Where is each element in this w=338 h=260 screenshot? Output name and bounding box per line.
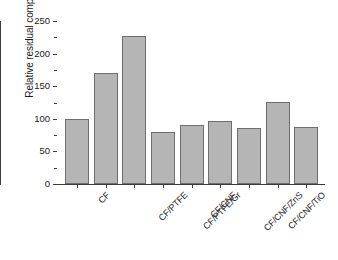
bar [65, 119, 89, 184]
x-tick [306, 184, 307, 188]
x-tick-label: CF [96, 190, 111, 205]
y-tick-major [53, 184, 57, 185]
y-tick-label: 200 [8, 49, 50, 58]
y-tick-label: 250 [8, 16, 50, 25]
x-tick [220, 184, 221, 188]
x-tick [249, 184, 250, 188]
bar [237, 128, 261, 184]
y-tick-label: 100 [8, 114, 50, 123]
y-tick-label-text: 250 [10, 16, 50, 25]
plot-area [57, 21, 325, 184]
x-tick [77, 184, 78, 188]
bar [180, 125, 204, 184]
bar [122, 36, 146, 184]
y-tick-label-text: 200 [10, 49, 50, 58]
x-tick [106, 184, 107, 188]
x-tick [278, 184, 279, 188]
x-tick [134, 184, 135, 188]
y-tick-label-text: 50 [10, 146, 50, 155]
x-tick [192, 184, 193, 188]
y-tick-label-text: 150 [10, 81, 50, 90]
y-axis-line [0, 21, 1, 185]
y-tick-label-text: 0 [10, 179, 50, 188]
bar [208, 121, 232, 184]
bar [94, 73, 118, 184]
bar [151, 132, 175, 184]
y-tick-label-text: 100 [10, 114, 50, 123]
y-tick-label: 0 [8, 179, 50, 188]
x-tick [163, 184, 164, 188]
bar [266, 102, 290, 184]
y-tick-label: 150 [8, 81, 50, 90]
x-tick-label: CF/PTFE [156, 190, 189, 223]
y-tick-label: 50 [8, 146, 50, 155]
bar-chart-figure: Relative residual compression [%] 050100… [0, 0, 338, 260]
bar [294, 127, 318, 184]
